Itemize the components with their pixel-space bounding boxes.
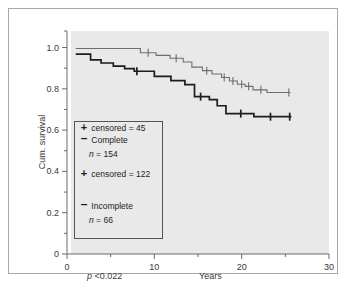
figure-frame: 00.20.40.60.81.0 0102030 Cum. survival Y… (8, 8, 338, 274)
y-tick-label: 0.8 (27, 84, 59, 93)
legend-plus-icon: + (79, 122, 89, 133)
survival-curve-incomplete (76, 54, 292, 121)
p-value-annotation: p <0.022 (87, 271, 122, 281)
x-axis-title: Years (199, 271, 222, 281)
legend-entry-incomplete: – Incomplete (79, 198, 133, 211)
legend-plus-icon: + (79, 168, 89, 179)
legend-dash-icon: – (79, 132, 89, 144)
n-value: = 66 (94, 215, 113, 225)
curve-line (76, 54, 292, 117)
figure-container: 00.20.40.60.81.0 0102030 Cum. survival Y… (0, 0, 349, 284)
curve-line (76, 49, 291, 93)
legend-n-incomplete: n = 66 (79, 216, 113, 225)
legend-label: Incomplete (89, 201, 133, 211)
legend-censored-incomplete: + censored = 45 (79, 122, 145, 133)
plot-svg (9, 9, 349, 284)
x-tick-label: 0 (64, 263, 69, 272)
x-tick-label: 20 (237, 263, 247, 272)
x-tick-label: 10 (149, 263, 159, 272)
legend-entry-complete: – Complete (79, 132, 128, 145)
legend-censored-text: censored = 122 (89, 169, 150, 179)
legend-censored-complete: + censored = 122 (79, 168, 150, 179)
survival-curves (76, 49, 292, 121)
y-axis-title: Cum. survival (37, 102, 47, 182)
x-axis-ticks (67, 254, 329, 259)
legend-label: Complete (89, 135, 128, 145)
legend-n-complete: n = 154 (79, 150, 118, 159)
n-value: = 154 (94, 149, 118, 159)
legend-censored-text: censored = 45 (89, 123, 145, 133)
y-axis-ticks (62, 31, 67, 254)
chart-legend: – Completen = 154+ censored = 122– Incom… (74, 121, 163, 239)
legend-dash-icon: – (79, 198, 89, 210)
x-tick-label: 30 (324, 263, 334, 272)
y-tick-label: 1.0 (27, 43, 59, 52)
y-tick-label: 0.2 (27, 208, 59, 217)
y-tick-label: 0 (27, 250, 59, 259)
survival-curve-complete (76, 49, 291, 97)
p-value-text: <0.022 (92, 271, 122, 281)
